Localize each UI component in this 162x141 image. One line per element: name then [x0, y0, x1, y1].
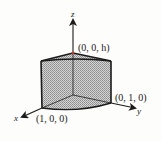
x-corner-label: (1, 0, 0)	[36, 113, 68, 125]
y-axis-label: y	[136, 106, 141, 116]
x-axis-label: x	[13, 113, 18, 123]
apex-point	[72, 52, 75, 55]
apex-label: (0, 0, h)	[78, 42, 110, 54]
face-curved	[41, 60, 111, 110]
solid-region-diagram: z x y (0, 0, h) (1, 0, 0) (0, 1, 0)	[0, 0, 162, 141]
edge-vertical-left	[41, 61, 42, 108]
diagram-canvas: z x y (0, 0, h) (1, 0, 0) (0, 1, 0)	[0, 0, 162, 141]
y-corner-label: (0, 1, 0)	[115, 92, 147, 104]
y-axis	[111, 103, 135, 108]
z-axis-label: z	[70, 9, 75, 19]
